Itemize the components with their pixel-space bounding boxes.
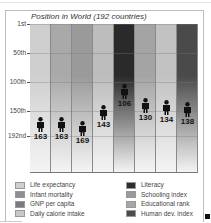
legend-swatch	[126, 191, 136, 198]
bar-column	[51, 24, 72, 172]
person-icon	[78, 121, 87, 136]
value-label: 163	[30, 132, 51, 141]
person-icon	[120, 84, 129, 99]
legend-label: Life expectancy	[30, 181, 75, 188]
value-label: 130	[135, 113, 156, 122]
bar-column	[156, 24, 177, 172]
y-tick-label: 192nd	[0, 132, 26, 139]
y-tick-label: 50th	[0, 49, 26, 56]
legend-label: Schooling index	[141, 191, 187, 198]
person-marker: 134	[156, 100, 177, 124]
legend-label: Human dev. index	[141, 210, 193, 217]
top-divider	[0, 2, 211, 3]
legend-label: Educational rank	[141, 200, 189, 207]
legend-item: Daily calorie intake	[15, 210, 85, 219]
legend-label: Daily calorie intake	[30, 210, 85, 217]
person-icon	[183, 102, 192, 117]
bar-column	[30, 24, 51, 172]
legend-label: Infant mortality	[30, 191, 73, 198]
y-tick-label: 100th	[0, 78, 26, 85]
person-icon	[57, 117, 66, 132]
person-icon	[99, 105, 108, 120]
grid-line	[30, 53, 198, 54]
legend-swatch	[15, 210, 25, 217]
legend-item: Infant mortality	[15, 191, 73, 200]
bar-column	[177, 24, 198, 172]
value-label: 169	[72, 136, 93, 145]
legend-item: Human dev. index	[126, 210, 193, 219]
legend-item: GNP per capita	[15, 200, 74, 209]
legend-swatch	[126, 182, 136, 189]
person-marker: 106	[114, 84, 135, 108]
legend-swatch	[15, 182, 25, 189]
value-label: 138	[177, 117, 198, 126]
y-tick-label: 1st	[0, 20, 26, 27]
legend-item: Schooling index	[126, 191, 187, 200]
plot-area: 163163169143106130134138	[30, 24, 198, 173]
person-marker: 163	[51, 117, 72, 141]
value-label: 106	[114, 99, 135, 108]
value-label: 134	[156, 115, 177, 124]
bottom-divider	[0, 221, 22, 222]
person-icon	[36, 117, 45, 132]
legend-item: Life expectancy	[15, 181, 75, 190]
legend-item: Literacy	[126, 181, 164, 190]
value-label: 143	[93, 120, 114, 129]
legend-swatch	[15, 201, 25, 208]
legend-swatch	[126, 210, 136, 217]
legend-swatch	[126, 201, 136, 208]
grid-line	[30, 24, 198, 25]
person-marker: 143	[93, 105, 114, 129]
legend-label: GNP per capita	[30, 200, 74, 207]
chart-title: Position in World (192 countries)	[31, 12, 147, 21]
y-tick-label: 150th	[0, 107, 26, 114]
legend-swatch	[15, 191, 25, 198]
person-icon	[162, 100, 171, 115]
bar-column	[72, 24, 93, 172]
legend-label: Literacy	[141, 181, 164, 188]
person-marker: 169	[72, 121, 93, 145]
person-marker: 138	[177, 102, 198, 126]
person-marker: 130	[135, 98, 156, 122]
person-marker: 163	[30, 117, 51, 141]
person-icon	[141, 98, 150, 113]
bar-column	[93, 24, 114, 172]
legend-item: Educational rank	[126, 200, 189, 209]
value-label: 163	[51, 132, 72, 141]
corner-marker	[205, 214, 210, 219]
